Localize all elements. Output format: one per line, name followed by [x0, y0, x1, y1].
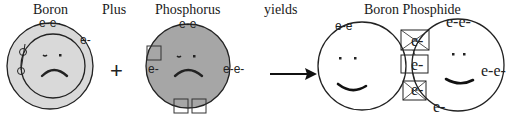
diagram-graphics: e-e- e- + e-e e- e-e-	[0, 0, 513, 117]
yields-arrow-icon	[270, 68, 317, 80]
bp-right-eye-icon	[463, 53, 466, 56]
phosphorus-right-electrons: e-e-	[223, 62, 244, 76]
boron-top-electrons: e-e-	[39, 16, 60, 30]
bp-right-side-electrons: e-e-	[481, 62, 506, 79]
bp-left-eye-icon	[339, 57, 342, 60]
boron-inner-circle	[21, 34, 85, 98]
boron-atom: e-e- e-	[7, 16, 93, 109]
phosphorus-left-electron: e-	[148, 62, 159, 76]
phosphorus-top-electrons: e-e	[179, 17, 197, 31]
bp-boron-circle	[318, 22, 406, 110]
bp-right-eye-icon	[452, 53, 455, 56]
bp-left-top-electrons: e-e	[335, 19, 353, 33]
boron-phosphide-molecule: e-e e-e- e-e- e- e- e- e-	[318, 13, 506, 115]
boron-right-eye-icon	[59, 54, 62, 57]
phosphorus-right-eye-icon	[193, 55, 196, 58]
bp-bond-bottom-electron: e-	[411, 81, 423, 98]
bp-bond-middle-electron: e-	[411, 56, 423, 73]
bp-right-top-electrons: e-e-	[446, 13, 471, 30]
bp-left-happy-mouth-icon	[338, 84, 366, 90]
phosphorus-atom: e-e e- e-e-	[146, 17, 244, 113]
bp-bottom-electron: e-	[433, 98, 445, 115]
boron-right-electron: e-	[80, 33, 91, 47]
bp-right-happy-mouth-icon	[446, 79, 473, 83]
boron-phosphide-diagram: Boron Plus Phosphorus yields Boron Phosp…	[0, 0, 513, 117]
bp-left-eye-icon	[354, 57, 357, 60]
bp-bond-top-electron: e-	[411, 32, 423, 49]
plus-sign: +	[110, 58, 123, 83]
